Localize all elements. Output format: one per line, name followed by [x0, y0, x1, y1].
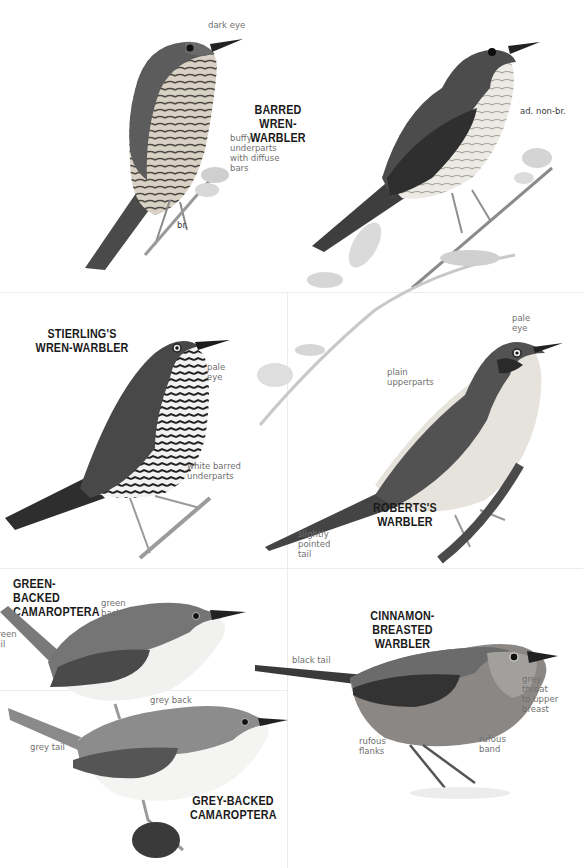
label-white-barred-underparts: white barred underparts — [187, 461, 241, 481]
label-green-back: green back — [101, 598, 126, 618]
illustration-grey-backed-camaroptera — [8, 700, 288, 860]
label-plain-upperparts: plain upperparts — [387, 367, 434, 387]
illustration-barred-wren-warbler-breeding — [75, 30, 255, 275]
label-dark-eye: dark eye — [208, 20, 245, 30]
label-grey-tail: grey tail — [30, 742, 65, 752]
label-rufous-band: rufous band — [479, 734, 506, 754]
illustration-stierlings-wren-warbler — [5, 328, 235, 560]
title-barred-wren-warbler: BARRED WREN-WARBLER — [235, 103, 321, 145]
tag-adult-non-breeding: ad. non-br. — [520, 106, 566, 116]
label-grey-back: grey back — [150, 695, 192, 705]
title-robertss-warbler: ROBERTS'S WARBLER — [366, 501, 443, 529]
illustration-barred-wren-warbler-non-breeding — [312, 28, 542, 258]
label-pale-eye-roberts: pale eye — [512, 313, 530, 333]
tag-breeding: br. — [177, 220, 188, 230]
label-rufous-flanks: rufous flanks — [359, 736, 386, 756]
divider-horizontal-bottom — [0, 568, 583, 569]
label-slightly-pointed-tail: slightly pointed tail — [298, 529, 330, 559]
label-green-tail: green tail — [0, 629, 17, 649]
label-black-tail: black tail — [292, 655, 331, 665]
label-pale-eye: pale eye — [207, 362, 225, 382]
label-grey-throat-upper-breast: grey throat to upper breast — [522, 674, 558, 714]
